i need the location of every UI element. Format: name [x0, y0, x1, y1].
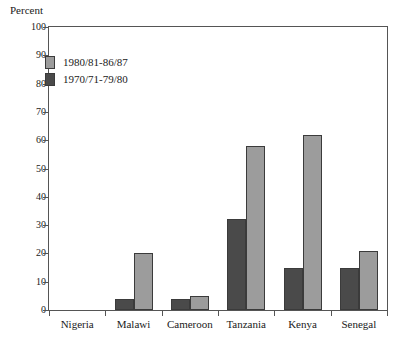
- y-axis-tick-label: 20: [0, 247, 46, 259]
- x-axis-tick-label: Malawi: [105, 317, 161, 331]
- bar: [284, 268, 303, 310]
- legend-item-label: 1980/81-86/87: [63, 56, 128, 69]
- y-axis-tick-label: 100: [0, 21, 46, 33]
- legend-item: 1970/71-79/80: [45, 71, 128, 88]
- x-axis-tick-label: Senegal: [331, 317, 387, 331]
- y-axis-tick-mark: [43, 169, 48, 170]
- bar: [246, 146, 265, 310]
- y-axis-tick-label: 90: [0, 49, 46, 61]
- x-axis-tick-label: Kenya: [274, 317, 330, 331]
- bar-group: [340, 27, 378, 310]
- bar-group: [284, 27, 322, 310]
- legend-swatch-icon: [45, 73, 55, 86]
- x-axis-tick-mark: [331, 311, 332, 316]
- bar: [134, 253, 153, 310]
- bar: [227, 219, 246, 310]
- y-axis-tick-label: 40: [0, 191, 46, 203]
- bar-chart: Percent 0102030405060708090100 NigeriaMa…: [0, 0, 412, 337]
- bar-group: [171, 27, 209, 310]
- bar: [303, 135, 322, 310]
- y-axis-tick-mark: [43, 112, 48, 113]
- x-axis-tick-label: Tanzania: [218, 317, 274, 331]
- y-axis-tick-label: 0: [0, 304, 46, 316]
- x-axis-tick-label: Nigeria: [49, 317, 105, 331]
- y-axis-tick-mark: [43, 282, 48, 283]
- legend-item: 1980/81-86/87: [45, 54, 128, 71]
- legend-item-label: 1970/71-79/80: [63, 73, 128, 86]
- y-axis-tick-mark: [43, 310, 48, 311]
- bar: [171, 299, 190, 310]
- legend: 1980/81-86/871970/71-79/80: [45, 54, 128, 88]
- y-axis-tick-mark: [43, 253, 48, 254]
- y-axis-tick-mark: [43, 197, 48, 198]
- legend-swatch-icon: [45, 56, 55, 69]
- bar: [340, 268, 359, 310]
- x-axis-tick-mark: [218, 311, 219, 316]
- x-axis-tick-mark: [49, 311, 50, 316]
- x-axis-tick-label: Cameroon: [162, 317, 218, 331]
- y-axis-title: Percent: [10, 4, 43, 16]
- x-axis-tick-mark: [387, 311, 388, 316]
- bar: [359, 251, 378, 310]
- y-axis-tick-mark: [43, 225, 48, 226]
- y-axis-tick-label: 60: [0, 134, 46, 146]
- y-axis-tick-mark: [43, 27, 48, 28]
- x-axis-tick-mark: [105, 311, 106, 316]
- y-axis-tick-label: 80: [0, 78, 46, 90]
- y-axis-tick-label: 30: [0, 219, 46, 231]
- bar: [115, 299, 134, 310]
- bar-group: [227, 27, 265, 310]
- y-axis-tick-label: 70: [0, 106, 46, 118]
- bar: [190, 296, 209, 310]
- y-axis-tick-label: 10: [0, 276, 46, 288]
- x-axis-tick-mark: [274, 311, 275, 316]
- x-axis-tick-mark: [162, 311, 163, 316]
- y-axis-tick-mark: [43, 140, 48, 141]
- y-axis-tick-label: 50: [0, 163, 46, 175]
